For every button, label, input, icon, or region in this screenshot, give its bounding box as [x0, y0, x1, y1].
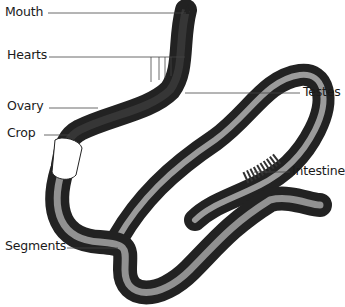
- label-ovary: Ovary: [7, 100, 43, 113]
- earthworm-diagram: Mouth Hearts Ovary Crop Testes Intestine…: [0, 0, 345, 307]
- earthworm-drawing: [0, 0, 345, 307]
- label-testes: Testes: [303, 86, 341, 99]
- label-hearts: Hearts: [7, 49, 47, 62]
- worm-body-front: [62, 10, 186, 165]
- label-intestine: Intestine: [292, 165, 345, 178]
- label-mouth: Mouth: [5, 6, 43, 19]
- worm-body-tail: [57, 170, 320, 293]
- label-crop: Crop: [7, 127, 35, 140]
- clitellum: [52, 138, 82, 179]
- label-segments: Segments: [5, 240, 66, 253]
